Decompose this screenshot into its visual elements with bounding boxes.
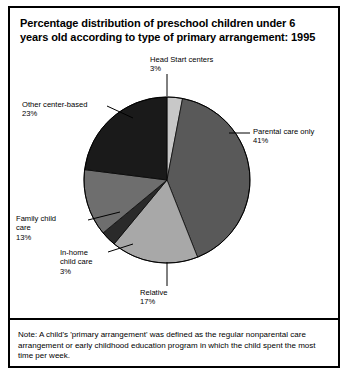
figure-note: Note: A child's 'primary arrangement' wa… xyxy=(18,330,326,362)
slice-label-other-center-based: Other center-based 23% xyxy=(22,100,87,119)
pie-slice xyxy=(85,97,167,180)
slice-label-head-start: Head Start centers 3% xyxy=(150,55,213,74)
pie-chart: Head Start centers 3% Other center-based… xyxy=(0,0,350,377)
figure-page: Percentage distribution of preschool chi… xyxy=(0,0,350,377)
slice-label-in-home-child-care: In-home child care 3% xyxy=(60,248,93,276)
slice-label-family-child-care: Family child care 13% xyxy=(16,214,56,242)
slice-label-parental-care-only: Parental care only 41% xyxy=(253,127,314,146)
note-divider xyxy=(10,318,338,320)
slice-label-relative: Relative 17% xyxy=(140,288,167,307)
